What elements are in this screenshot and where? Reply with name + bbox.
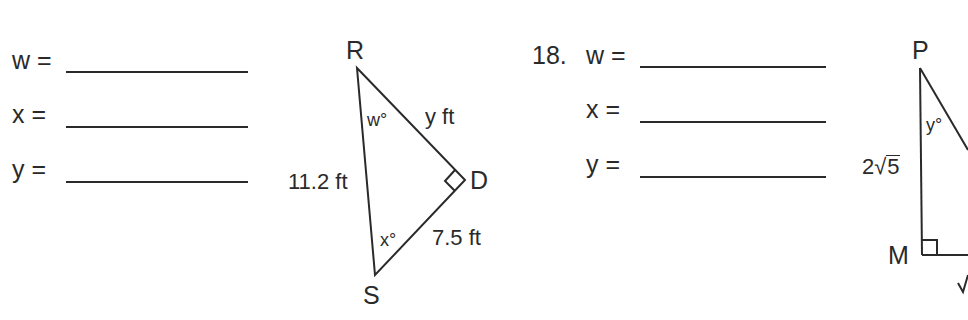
right-angle-marker-d bbox=[445, 170, 455, 191]
problem-number-18: 18. bbox=[532, 43, 567, 68]
vertex-s: S bbox=[363, 283, 380, 308]
angle-r-label: w° bbox=[367, 111, 387, 129]
answer-label-y-18: y = bbox=[586, 152, 620, 177]
side-pm-radicand: 5 bbox=[886, 155, 899, 178]
side-ds-length: 7.5 ft bbox=[432, 227, 481, 249]
side-rd-length: y ft bbox=[425, 106, 454, 128]
side-pm-length: 2√5 bbox=[862, 155, 900, 178]
answer-blank-x-18[interactable] bbox=[640, 121, 826, 123]
vertex-p: P bbox=[912, 38, 929, 63]
radical-sign: √ bbox=[874, 154, 886, 179]
answer-label-w-18: w = bbox=[586, 43, 626, 68]
answer-label-x-18: x = bbox=[586, 97, 620, 122]
vertex-r: R bbox=[346, 38, 364, 63]
side-hypotenuse-p bbox=[920, 68, 968, 150]
partial-radical-glyph bbox=[958, 275, 968, 292]
side-rs-length: 11.2 ft bbox=[288, 171, 348, 193]
vertex-m: M bbox=[888, 243, 909, 268]
vertex-d: D bbox=[470, 168, 488, 193]
angle-s-label: x° bbox=[380, 231, 396, 249]
answer-blank-w-18[interactable] bbox=[640, 66, 826, 68]
angle-p-label: y° bbox=[926, 116, 942, 134]
side-pm bbox=[920, 68, 922, 255]
side-pm-coefficient: 2 bbox=[862, 154, 874, 179]
answer-blank-y-18[interactable] bbox=[640, 176, 826, 178]
triangle-figures bbox=[0, 0, 968, 320]
right-angle-marker-m bbox=[922, 240, 937, 255]
